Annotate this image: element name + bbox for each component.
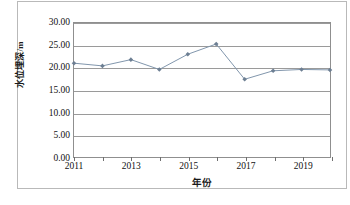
series-line [74, 44, 330, 79]
plot-area: 0.005.0010.0015.0020.0025.0030.00 201120… [73, 22, 331, 158]
y-tick-label: 25.00 [49, 41, 70, 51]
y-tick-label: 30.00 [49, 18, 70, 28]
data-point-marker [271, 69, 276, 74]
x-tick-label: 2017 [237, 162, 256, 172]
data-point-marker [72, 61, 77, 66]
line-series [74, 23, 330, 157]
x-axis-title: 年份 [74, 175, 330, 189]
x-tick-label: 2015 [179, 162, 198, 172]
data-point-marker [129, 57, 134, 62]
data-point-marker [157, 67, 162, 72]
x-tick-label: 2019 [294, 162, 313, 172]
x-tick [332, 157, 333, 161]
figure-caption [0, 197, 350, 205]
x-tick [275, 157, 276, 161]
x-tick [103, 157, 104, 161]
gridline-y [74, 159, 330, 160]
data-point-marker [100, 64, 105, 69]
y-tick-label: 10.00 [49, 109, 70, 119]
y-tick-label: 5.00 [53, 132, 70, 142]
figure-container: 水位埋深/m 0.005.0010.0015.0020.0025.0030.00… [0, 0, 350, 205]
x-tick-label: 2011 [65, 162, 84, 172]
y-tick-label: 15.00 [49, 86, 70, 96]
x-tick [217, 157, 218, 161]
x-tick [160, 157, 161, 161]
data-point-marker [185, 52, 190, 57]
y-tick-label: 20.00 [49, 64, 70, 74]
x-tick-label: 2013 [122, 162, 141, 172]
data-point-marker [299, 67, 304, 72]
y-axis-title: 水位埋深/m [13, 10, 26, 120]
